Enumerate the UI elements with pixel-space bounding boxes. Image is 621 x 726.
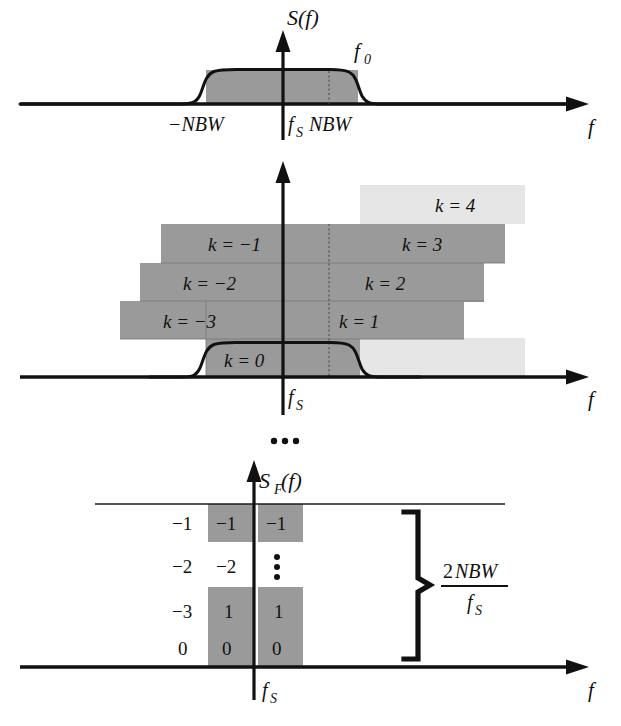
spectral-folding-figure: S(f) f 0 −NBW f S NBW f xyxy=(0,0,621,726)
row-label-minus2: −2 xyxy=(172,556,192,577)
bottom-xlabel-f: f xyxy=(588,678,597,702)
top-label-fs: f S xyxy=(288,113,303,140)
cell-minus2-right-ellipsis-icon xyxy=(274,554,280,580)
bar-k4-lower-tail xyxy=(360,338,525,377)
middle-xlabel-f: f xyxy=(588,387,597,411)
svg-text:f: f xyxy=(262,679,270,702)
svg-text:S: S xyxy=(296,398,303,413)
bar-label-km3: k = −3 xyxy=(163,311,216,332)
middle-axis-arrow-up xyxy=(276,161,291,183)
svg-text:S: S xyxy=(475,603,482,618)
row-label-minus3: −3 xyxy=(172,601,192,622)
brace-fraction-label: 2 NBW f S xyxy=(441,560,508,618)
svg-text:S: S xyxy=(296,125,303,140)
cell-one-left: 1 xyxy=(224,601,234,622)
bottom-axis-arrow-right xyxy=(566,660,589,675)
svg-text:S: S xyxy=(259,468,270,493)
top-xlabel-f: f xyxy=(588,115,597,139)
svg-text:f: f xyxy=(288,113,296,136)
top-f0-label: f 0 xyxy=(354,39,371,67)
svg-text:f: f xyxy=(467,591,475,614)
cell-minus1-left: −1 xyxy=(216,513,236,534)
range-brace xyxy=(404,512,430,659)
svg-text:f: f xyxy=(288,386,296,409)
svg-text:NBW: NBW xyxy=(454,560,500,582)
middle-axis-arrow-right xyxy=(566,370,589,385)
panel-top: S(f) f 0 −NBW f S NBW f xyxy=(20,5,597,140)
bar-label-k2: k = 2 xyxy=(365,273,406,294)
bar-label-k1: k = 1 xyxy=(339,311,379,332)
panel-bottom: S F (f) −1 −2 −3 0 −1 −1 −2 1 1 0 0 xyxy=(20,460,597,706)
middle-label-fs: f S xyxy=(288,386,303,413)
bar-label-k3: k = 3 xyxy=(402,234,442,255)
bar-label-k4: k = 4 xyxy=(435,195,476,216)
svg-text:(f): (f) xyxy=(281,468,302,493)
cell-zero-left: 0 xyxy=(222,638,232,659)
row-label-zero: 0 xyxy=(178,638,188,659)
row-label-minus1: −1 xyxy=(172,513,192,534)
top-label-neg-nbw: −NBW xyxy=(168,113,226,135)
bar-label-k0: k = 0 xyxy=(224,350,265,371)
bar-label-km2: k = −2 xyxy=(183,273,237,294)
top-label-nbw: NBW xyxy=(308,113,354,135)
figure-canvas: S(f) f 0 −NBW f S NBW f xyxy=(0,0,621,726)
top-ylabel-S-of-f: S(f) xyxy=(287,5,319,30)
bottom-label-fs: f S xyxy=(262,679,277,706)
vertical-ellipsis xyxy=(271,438,299,444)
cell-one-right: 1 xyxy=(274,601,284,622)
svg-text:2: 2 xyxy=(443,560,453,582)
cell-minus2-left: −2 xyxy=(216,556,236,577)
svg-text:0: 0 xyxy=(364,52,371,67)
panel-middle: k = 4 k = −1 k = 3 k = −2 k = 2 k = −3 k… xyxy=(20,161,597,415)
svg-text:S: S xyxy=(270,691,277,706)
cell-minus1-right: −1 xyxy=(266,513,286,534)
bottom-ylabel-SF-of-f: S F (f) xyxy=(259,468,302,497)
top-axis-arrow-right xyxy=(566,97,589,112)
bar-label-km1: k = −1 xyxy=(208,234,261,255)
svg-text:f: f xyxy=(354,39,363,63)
top-axis-arrow-up xyxy=(276,30,291,52)
cell-zero-right: 0 xyxy=(272,638,282,659)
